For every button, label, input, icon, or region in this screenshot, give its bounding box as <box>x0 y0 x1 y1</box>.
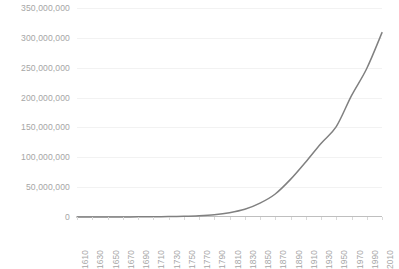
x-axis-tick <box>352 217 353 220</box>
x-axis-tick <box>291 217 292 220</box>
x-axis-tick-label: 1650 <box>111 250 121 269</box>
x-axis-tick-label: 1810 <box>233 250 243 269</box>
x-axis-tick <box>77 217 78 220</box>
y-axis-tick-label: 300,000,000 <box>21 33 70 43</box>
x-axis-tick <box>336 217 337 220</box>
x-axis-tick <box>260 217 261 220</box>
x-axis-tick-label: 1730 <box>172 250 182 269</box>
x-axis-tick-label: 1830 <box>248 250 258 269</box>
x-axis-tick <box>306 217 307 220</box>
x-axis-tick <box>321 217 322 220</box>
x-axis-tick-label: 1630 <box>95 250 105 269</box>
y-axis-tick-label: 200,000,000 <box>21 93 70 103</box>
y-axis-tick-label: 50,000,000 <box>26 182 70 192</box>
x-axis-tick <box>230 217 231 220</box>
y-axis-tick-label: 0 <box>65 212 70 222</box>
x-axis-tick-label: 1930 <box>324 250 334 269</box>
x-axis-tick <box>199 217 200 220</box>
x-axis-tick-label: 1610 <box>80 250 90 269</box>
x-axis-tick <box>245 217 246 220</box>
y-axis-tick-label: 250,000,000 <box>21 63 70 73</box>
x-axis-tick <box>382 217 383 220</box>
x-axis-tick-label: 1970 <box>355 250 365 269</box>
x-axis-tick <box>184 217 185 220</box>
x-axis-tick <box>123 217 124 220</box>
x-axis-tick <box>138 217 139 220</box>
y-axis-labels: 050,000,000100,000,000150,000,000200,000… <box>0 0 74 252</box>
y-axis-tick-label: 100,000,000 <box>21 152 70 162</box>
x-axis-tick <box>108 217 109 220</box>
x-axis-tick-label: 1750 <box>187 250 197 269</box>
x-axis-tick-label: 1670 <box>126 250 136 269</box>
x-axis-tick-label: 2010 <box>385 250 395 269</box>
x-axis-labels: 1610163016501670169017101730175017701790… <box>77 219 382 252</box>
x-axis-tick <box>214 217 215 220</box>
x-axis-tick-label: 1910 <box>309 250 319 269</box>
x-axis-tick <box>169 217 170 220</box>
x-axis-tick-label: 1790 <box>217 250 227 269</box>
y-axis-tick-label: 350,000,000 <box>21 3 70 13</box>
x-axis-tick <box>153 217 154 220</box>
plot-area <box>77 8 382 217</box>
x-axis-tick-label: 1950 <box>339 250 349 269</box>
x-axis-tick <box>367 217 368 220</box>
y-axis-tick-label: 150,000,000 <box>21 122 70 132</box>
x-axis-tick-label: 1870 <box>278 250 288 269</box>
x-axis-tick-label: 1850 <box>263 250 273 269</box>
x-axis-tick <box>275 217 276 220</box>
x-axis-tick-label: 1770 <box>202 250 212 269</box>
x-axis-tick-label: 1690 <box>141 250 151 269</box>
x-axis-tick-label: 1890 <box>294 250 304 269</box>
x-axis-tick-label: 1990 <box>370 250 380 269</box>
x-axis-tick-label: 1710 <box>156 250 166 269</box>
x-axis-tick <box>92 217 93 220</box>
series-population <box>77 8 382 217</box>
